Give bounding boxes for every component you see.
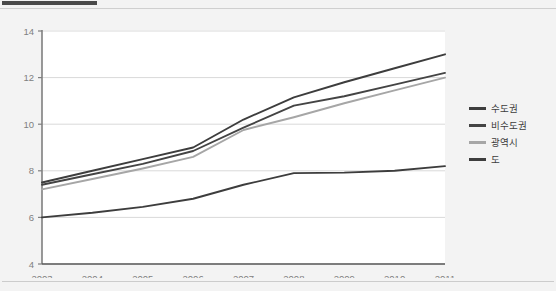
svg-text:12: 12 (23, 72, 34, 83)
footer-divider (2, 281, 554, 282)
svg-text:2009: 2009 (334, 273, 355, 278)
svg-text:2003: 2003 (31, 273, 52, 278)
svg-text:2007: 2007 (233, 273, 254, 278)
legend-item-label: 비수도권 (491, 120, 527, 131)
svg-text:2010: 2010 (384, 273, 405, 278)
svg-text:10: 10 (23, 119, 34, 130)
x-axis-tick-labels: 200320042005200620072008200920102011 (31, 273, 455, 278)
legend-swatch-icon (469, 158, 486, 161)
svg-text:4: 4 (29, 259, 34, 270)
legend-swatch-icon (469, 141, 486, 144)
svg-text:8: 8 (29, 165, 34, 176)
svg-text:2005: 2005 (132, 273, 153, 278)
legend-item-2[interactable]: 비수도권 (469, 117, 553, 133)
svg-text:2004: 2004 (82, 273, 103, 278)
header-divider (0, 8, 556, 9)
legend-item-label: 광역시 (491, 137, 518, 148)
legend-item-label: 수도권 (491, 103, 518, 114)
svg-text:2011: 2011 (435, 273, 455, 278)
legend-item-3[interactable]: 광역시 (469, 134, 553, 150)
svg-text:14: 14 (23, 26, 34, 37)
legend-item-1[interactable]: 수도권 (469, 100, 553, 116)
legend-swatch-icon (469, 107, 486, 110)
svg-text:6: 6 (29, 212, 34, 223)
legend-swatch-icon (469, 124, 486, 127)
y-axis-tick-labels: 468101214 (23, 26, 34, 270)
chart-legend: 수도권비수도권광역시도 (469, 100, 553, 168)
svg-text:2008: 2008 (283, 273, 304, 278)
svg-text:2006: 2006 (183, 273, 204, 278)
chart-page: 468101214 200320042005200620072008200920… (0, 0, 556, 291)
legend-item-4[interactable]: 도 (469, 151, 553, 167)
header-accent-bar (2, 1, 97, 5)
legend-item-label: 도 (491, 154, 500, 165)
plot-background (42, 30, 445, 264)
